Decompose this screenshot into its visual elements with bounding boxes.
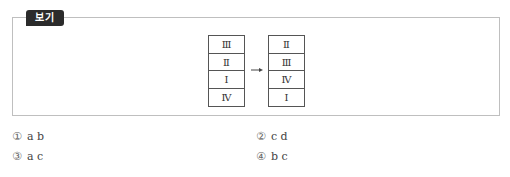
example-label: 보기	[26, 10, 64, 26]
stack-before: Ⅲ Ⅱ Ⅰ Ⅳ	[208, 35, 245, 107]
stack-cell: Ⅳ	[269, 71, 304, 89]
option-number: ②	[256, 130, 266, 143]
option-text: a c	[27, 150, 43, 163]
option-2[interactable]: ②c d	[256, 130, 288, 143]
option-4[interactable]: ④b c	[256, 150, 288, 163]
option-number: ①	[12, 130, 22, 143]
stack-cell: Ⅱ	[269, 36, 304, 54]
option-number: ③	[12, 150, 22, 163]
stack-cell: Ⅰ	[269, 89, 304, 107]
option-number: ④	[256, 150, 266, 163]
option-3[interactable]: ③a c	[12, 150, 43, 163]
stack-cell: Ⅱ	[209, 54, 244, 72]
stack-after: Ⅱ Ⅲ Ⅳ Ⅰ	[268, 35, 305, 107]
stack-cell: Ⅳ	[209, 89, 244, 107]
stack-cell: Ⅲ	[209, 36, 244, 54]
option-text: b c	[271, 150, 288, 163]
stack-cell: Ⅰ	[209, 71, 244, 89]
right-arrow-icon	[251, 65, 263, 75]
stack-cell: Ⅲ	[269, 54, 304, 72]
option-text: c d	[271, 130, 288, 143]
option-text: a b	[27, 130, 44, 143]
option-1[interactable]: ①a b	[12, 130, 44, 143]
